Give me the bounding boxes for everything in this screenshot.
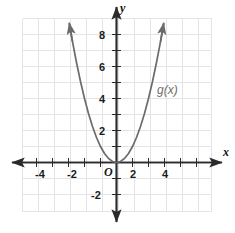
- y-axis-label: y: [120, 2, 125, 14]
- y-tick-label-pos4: 4: [99, 94, 105, 105]
- y-tick-label-pos8: 8: [99, 30, 105, 41]
- x-tick-label-pos2: 2: [130, 169, 136, 180]
- y-tick-label-pos2: 2: [99, 126, 105, 137]
- origin-label: O: [104, 166, 113, 178]
- y-tick-label-neg2: -2: [91, 190, 101, 201]
- function-label-gx: g(x): [157, 84, 178, 96]
- coordinate-graph: -4 -2 2 4 8 6 4 2 -2 O x y g(x): [0, 0, 235, 233]
- x-tick-label-neg4: -4: [35, 169, 45, 180]
- y-tick-label-pos6: 6: [99, 62, 105, 73]
- x-tick-label-neg2: -2: [67, 169, 77, 180]
- graph-canvas: [0, 0, 235, 233]
- x-axis-label: x: [223, 146, 229, 158]
- curve-arrow-right: [161, 23, 164, 41]
- x-tick-label-pos4: 4: [162, 169, 168, 180]
